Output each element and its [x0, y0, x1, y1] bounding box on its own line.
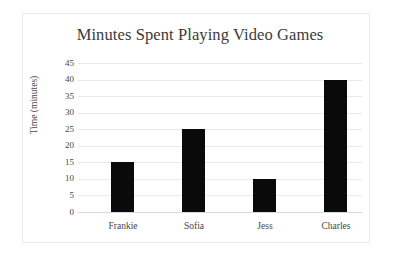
- gridline: [78, 146, 362, 147]
- gridline: [78, 63, 362, 64]
- y-tick-label: 45: [44, 59, 74, 68]
- gridline: [78, 113, 362, 114]
- gridline: [78, 80, 362, 81]
- y-axis-tick-labels: 454035302520151050: [42, 63, 74, 212]
- y-axis-title: Time (minutes): [29, 55, 39, 155]
- y-tick-label: 40: [44, 75, 74, 84]
- chart-figure: Minutes Spent Playing Video Games Time (…: [0, 0, 393, 255]
- gridline: [78, 129, 362, 130]
- bar: [324, 80, 347, 212]
- y-tick-label: 35: [44, 92, 74, 101]
- bar: [253, 179, 276, 212]
- x-axis-tick-labels: FrankieSofiaJessCharles: [78, 220, 362, 234]
- plot-area: [78, 63, 362, 212]
- y-tick-label: 5: [44, 191, 74, 200]
- bar: [111, 162, 134, 212]
- y-tick-label: 25: [44, 125, 74, 134]
- bar: [182, 129, 205, 212]
- y-tick-label: 30: [44, 108, 74, 117]
- chart-title: Minutes Spent Playing Video Games: [40, 24, 360, 45]
- y-tick-label: 15: [44, 158, 74, 167]
- y-tick-label: 0: [44, 208, 74, 217]
- x-tick-label: Charles: [293, 220, 379, 232]
- y-tick-label: 10: [44, 174, 74, 183]
- gridline: [78, 96, 362, 97]
- axis-baseline: [78, 212, 362, 213]
- y-tick-label: 20: [44, 141, 74, 150]
